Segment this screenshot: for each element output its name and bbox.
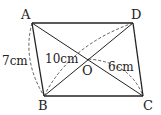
label-vertex-A: A — [20, 7, 31, 22]
label-vertex-O: O — [82, 63, 93, 78]
diagram-svg: A D B C O 7cm 10cm 6cm — [0, 0, 161, 115]
label-AB-length: 7cm — [2, 54, 28, 68]
parallelogram-diagram: A D B C O 7cm 10cm 6cm — [0, 0, 161, 115]
label-vertex-D: D — [131, 7, 141, 22]
side-AB — [32, 23, 44, 96]
label-vertex-C: C — [143, 98, 153, 113]
label-vertex-B: B — [38, 98, 48, 113]
label-OC-length: 6cm — [108, 60, 134, 74]
label-BD-length: 10cm — [45, 52, 79, 66]
side-DC — [133, 23, 143, 96]
